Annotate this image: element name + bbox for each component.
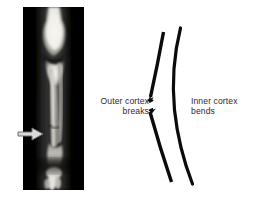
inner-cortex-label: Inner cortex bends: [191, 96, 261, 117]
arrow-right-icon: [17, 126, 45, 142]
outer-cortex-label-line2: breaks: [40, 106, 149, 116]
inner-cortex-label-line1: Inner cortex: [191, 96, 261, 106]
outer-cortex-label: Outer cortex breaks: [40, 96, 149, 117]
outer-cortex-label-line1: Outer cortex: [40, 96, 149, 106]
inner-cortex-line: [173, 28, 192, 184]
inner-cortex-label-line2: bends: [191, 106, 261, 116]
figure-canvas: Outer cortex breaks Inner cortex bends: [0, 0, 262, 202]
outer-cortex-line: [149, 32, 172, 182]
